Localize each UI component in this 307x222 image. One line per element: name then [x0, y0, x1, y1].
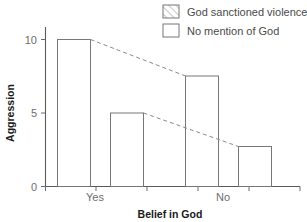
- legend-item-god-sanctioned-violence[interactable]: God sanctioned violence: [163, 5, 307, 18]
- bar-no-god-sanctioned-violence[interactable]: [186, 76, 219, 187]
- legend-item-no-mention-of-god[interactable]: No mention of God: [163, 24, 279, 37]
- y-tick-label-5: 5: [31, 107, 37, 119]
- y-axis-title: Aggression: [4, 84, 16, 142]
- connector-no-mention-of-god: [144, 113, 239, 147]
- legend: God sanctioned violence No mention of Go…: [163, 5, 307, 37]
- connector-god-sanctioned-violence: [91, 40, 186, 77]
- open-square-icon: [163, 24, 179, 37]
- y-tick-label-10: 10: [25, 34, 37, 46]
- y-tick-label-0: 0: [31, 181, 37, 193]
- hatched-square-icon: [163, 5, 179, 18]
- chart-canvas: God sanctioned violence No mention of Go…: [0, 0, 307, 222]
- x-tick-label-yes: Yes: [86, 191, 104, 203]
- aggression-bar-chart: God sanctioned violence No mention of Go…: [0, 0, 307, 222]
- legend-label-1: No mention of God: [187, 25, 279, 37]
- bars: [58, 40, 272, 187]
- bar-yes-god-sanctioned-violence[interactable]: [58, 40, 91, 187]
- legend-label-0: God sanctioned violence: [187, 6, 307, 18]
- bar-no-no-mention-of-god[interactable]: [239, 147, 272, 187]
- x-axis-title: Belief in God: [138, 208, 203, 220]
- bar-yes-no-mention-of-god[interactable]: [111, 113, 144, 187]
- x-axis: Yes No Belief in God: [46, 187, 301, 221]
- x-tick-label-no: No: [216, 191, 230, 203]
- y-axis: 10 5 0 Aggression: [4, 27, 46, 193]
